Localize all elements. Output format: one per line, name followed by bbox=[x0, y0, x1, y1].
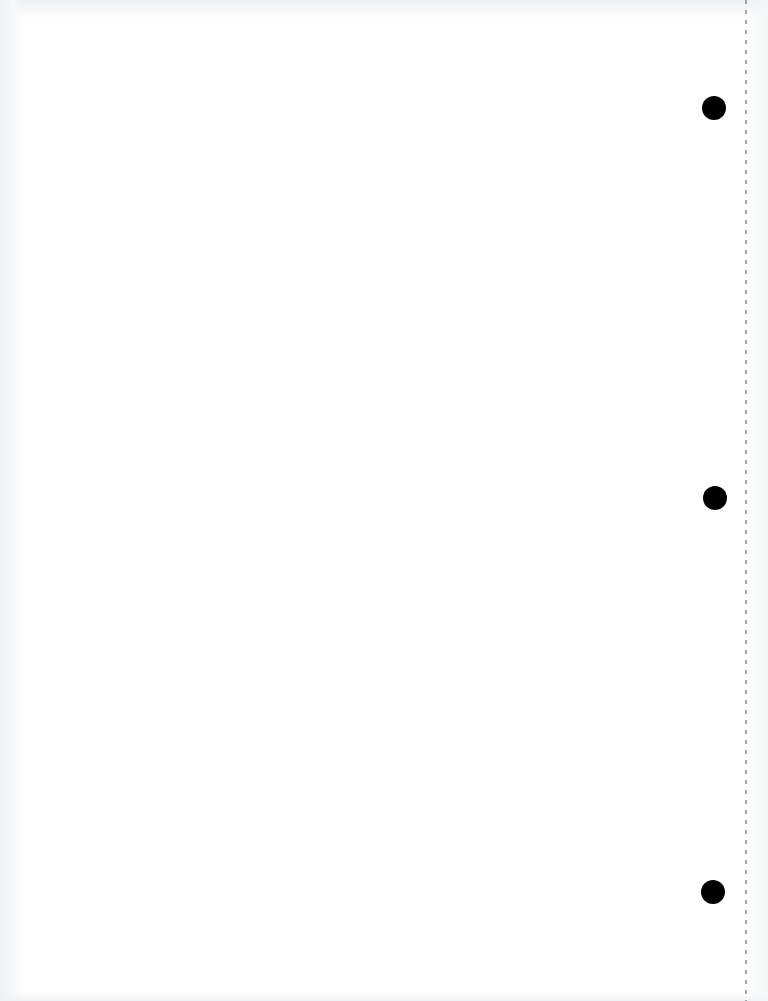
scan-shadow-right bbox=[748, 0, 768, 1001]
perforation-line bbox=[745, 0, 747, 1001]
punch-hole-top bbox=[702, 96, 726, 120]
scan-shadow-left bbox=[0, 0, 22, 1001]
scan-shadow-top bbox=[0, 0, 768, 18]
punch-hole-middle bbox=[703, 486, 727, 510]
blank-page bbox=[0, 0, 768, 1001]
punch-hole-bottom bbox=[701, 880, 725, 904]
scan-shadow-bottom bbox=[0, 993, 768, 1001]
